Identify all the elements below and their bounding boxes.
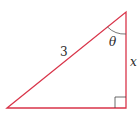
hypotenuse-label: 3 [60,45,68,59]
angle-theta-label: θ [109,35,117,49]
triangle-diagram: 3 θ x [0,0,140,114]
side-x-label: x [130,55,137,69]
right-angle-marker [115,97,126,108]
angle-arc [108,27,127,34]
triangle [7,12,126,108]
